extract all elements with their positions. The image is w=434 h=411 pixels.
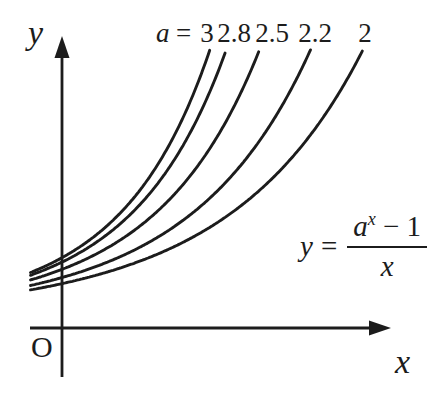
formula-numerator-tail: − 1 — [383, 210, 421, 242]
origin-label: O — [31, 332, 53, 362]
x-axis-label: x — [395, 345, 410, 379]
formula-lhs-var: y — [300, 230, 313, 262]
legend-value-a2: 2 — [358, 20, 372, 47]
legend-value-a2_5: 2.5 — [255, 20, 289, 47]
y-axis-label: y — [28, 16, 43, 50]
formula-numerator-exponent: x — [368, 209, 376, 229]
formula-fraction: ax − 1 x — [347, 210, 427, 283]
formula: y = ax − 1 x — [300, 210, 427, 283]
formula-equals: = — [321, 230, 337, 262]
legend-value-a2_2: 2.2 — [298, 20, 332, 47]
legend-parameter-var: a — [156, 20, 170, 47]
formula-numerator: ax − 1 — [347, 210, 427, 248]
plot-canvas — [0, 0, 434, 411]
x-axis-arrowhead-icon — [369, 321, 391, 336]
legend-equals: = — [176, 20, 191, 47]
formula-numerator-base: a — [353, 210, 368, 242]
figure: y x O a = 3 2.8 2.5 2.2 2 y = ax − 1 x — [0, 0, 434, 411]
y-axis-arrowhead-icon — [55, 36, 70, 58]
formula-lhs: y = — [300, 230, 337, 262]
legend-value-a3: 3 — [200, 20, 214, 47]
formula-denominator: x — [381, 248, 394, 282]
legend-value-a2_8: 2.8 — [217, 20, 251, 47]
